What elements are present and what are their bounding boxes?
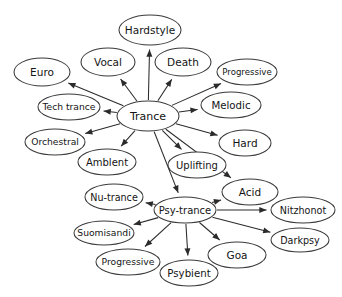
- node-hardstyle[interactable]: Hardstyle: [119, 15, 181, 45]
- node-shape-orchestral: [25, 129, 85, 155]
- node-shape-death: [155, 48, 211, 76]
- arrowhead-trance-to-acid: [223, 171, 231, 178]
- node-tech_trance[interactable]: Tech trance: [38, 94, 100, 120]
- arrowhead-psy_trance-to-nitzhonot: [259, 207, 266, 213]
- node-acid[interactable]: Acid: [222, 179, 278, 205]
- node-amblent[interactable]: Amblent: [78, 149, 136, 175]
- node-shape-melodic: [201, 92, 261, 118]
- node-shape-acid: [222, 179, 278, 205]
- node-uplifting[interactable]: Uplifting: [168, 152, 226, 178]
- genre-graph-diagram: HardstyleVocalDeathEuroProgressiveTech t…: [0, 0, 342, 297]
- node-shape-suomisandi: [74, 221, 134, 245]
- arrowhead-psy_trance-to-suomisandi: [134, 220, 142, 226]
- arrowhead-trance-to-hard: [210, 131, 218, 137]
- node-shape-euro: [14, 58, 70, 86]
- node-shape-nitzhonot: [271, 197, 335, 223]
- node-progressive_bottom[interactable]: Progressive: [96, 249, 160, 275]
- arrowhead-trance-to-tech_trance: [104, 109, 111, 115]
- arrowhead-trance-to-euro: [68, 83, 76, 89]
- arrowhead-trance-to-melodic: [190, 107, 198, 113]
- node-psybient[interactable]: Psybient: [160, 260, 218, 286]
- arrowhead-psy_trance-to-acid: [213, 199, 221, 205]
- node-euro[interactable]: Euro: [14, 58, 70, 86]
- graph-canvas: HardstyleVocalDeathEuroProgressiveTech t…: [0, 0, 342, 297]
- node-shape-uplifting: [168, 152, 226, 178]
- arrowhead-trance-to-death: [165, 79, 171, 87]
- arrowhead-trance-to-vocal: [121, 79, 128, 87]
- arrowhead-psy_trance-to-psybient: [184, 248, 190, 255]
- node-trance[interactable]: Trance: [117, 101, 179, 131]
- node-melodic[interactable]: Melodic: [201, 92, 261, 118]
- node-shape-tech_trance: [38, 94, 100, 120]
- node-darkpsy[interactable]: Darkpsy: [271, 228, 329, 252]
- node-death[interactable]: Death: [155, 48, 211, 76]
- node-shape-goa: [208, 242, 266, 268]
- node-progressive_top[interactable]: Progressive: [217, 59, 277, 85]
- node-shape-trance: [117, 101, 179, 131]
- node-shape-hardstyle: [119, 15, 181, 45]
- node-suomisandi[interactable]: Suomisandi: [74, 221, 134, 245]
- nodes-layer: HardstyleVocalDeathEuroProgressiveTech t…: [14, 15, 335, 286]
- arrowhead-trance-to-orchestral: [85, 129, 93, 135]
- arrowhead-trance-to-psy_trance: [173, 185, 179, 193]
- node-vocal[interactable]: Vocal: [81, 48, 135, 76]
- arrowhead-trance-to-hardstyle: [146, 50, 152, 57]
- node-shape-nu_trance: [85, 184, 143, 210]
- node-shape-vocal: [81, 48, 135, 76]
- node-shape-amblent: [78, 149, 136, 175]
- node-goa[interactable]: Goa: [208, 242, 266, 268]
- node-psy_trance[interactable]: Psy-trance: [154, 197, 216, 223]
- node-hard[interactable]: Hard: [219, 130, 271, 156]
- node-shape-psy_trance: [154, 197, 216, 223]
- node-nitzhonot[interactable]: Nitzhonot: [271, 197, 335, 223]
- node-orchestral[interactable]: Orchestral: [25, 129, 85, 155]
- edge-psy_trance-to-darkpsy: [212, 217, 270, 232]
- node-shape-darkpsy: [271, 228, 329, 252]
- edge-trance-to-hardstyle: [148, 50, 149, 101]
- arrowhead-psy_trance-to-nu_trance: [146, 201, 154, 207]
- node-shape-psybient: [160, 260, 218, 286]
- node-shape-hard: [219, 130, 271, 156]
- node-nu_trance[interactable]: Nu-trance: [85, 184, 143, 210]
- node-shape-progressive_top: [217, 59, 277, 85]
- node-shape-progressive_bottom: [96, 249, 160, 275]
